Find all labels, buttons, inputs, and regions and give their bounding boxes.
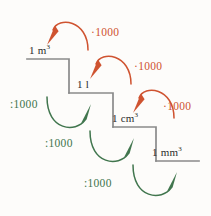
step-label-cm3-exponent: 3 bbox=[135, 111, 139, 119]
step-label-m3-text: 1 m bbox=[29, 44, 46, 56]
multiply-arrowhead-3 bbox=[133, 94, 145, 114]
step-label-mm3: 1 mm3 bbox=[152, 146, 182, 158]
step-label-l-text: 1 l bbox=[77, 78, 89, 90]
multiply-label-2: ·1000 bbox=[134, 60, 162, 72]
step-label-mm3-exponent: 3 bbox=[178, 145, 182, 153]
divide-arrowhead-1 bbox=[81, 104, 91, 123]
step-label-l: 1 l bbox=[77, 78, 89, 90]
multiply-label-3: ·1000 bbox=[163, 100, 191, 112]
step-line-l bbox=[69, 93, 113, 127]
divide-arrowhead-3 bbox=[167, 172, 177, 191]
divide-arc-2 bbox=[90, 131, 128, 161]
step-label-cm3-text: 1 cm bbox=[112, 112, 135, 124]
divide-label-1: :1000 bbox=[10, 98, 38, 110]
multiply-arrowhead-1 bbox=[47, 26, 59, 46]
multiply-arrowheads bbox=[47, 26, 145, 114]
divide-arrowhead-2 bbox=[124, 138, 134, 157]
multiply-arc-2 bbox=[96, 56, 131, 84]
multiply-arc-1 bbox=[53, 22, 88, 50]
step-label-m3: 1 m3 bbox=[29, 44, 50, 56]
multiply-label-1: ·1000 bbox=[91, 26, 119, 38]
step-line-m3 bbox=[27, 59, 69, 93]
divide-arc-3 bbox=[133, 165, 171, 195]
divide-label-2: :1000 bbox=[45, 137, 73, 149]
step-line-cm3 bbox=[113, 127, 156, 161]
conversion-staircase-figure: 1 m3 1 l 1 cm3 1 mm3 ·1000 ·1000 ·1000 :… bbox=[0, 0, 211, 216]
step-label-cm3: 1 cm3 bbox=[112, 112, 138, 124]
multiply-arrowhead-2 bbox=[90, 60, 102, 80]
divide-label-3: :1000 bbox=[84, 177, 112, 189]
step-label-mm3-text: 1 mm bbox=[152, 146, 178, 158]
step-label-m3-exponent: 3 bbox=[46, 43, 50, 51]
divide-arc-1 bbox=[47, 97, 85, 127]
